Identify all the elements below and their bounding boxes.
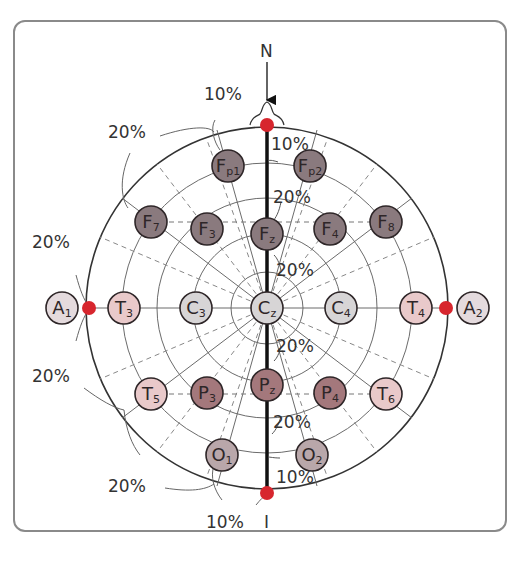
nasion-point — [260, 118, 274, 132]
electrode-f8: F8 — [370, 206, 402, 238]
electrode-a2: A2 — [457, 292, 489, 324]
electrode-t5: T5 — [135, 378, 167, 410]
left-preauricular-point — [82, 301, 96, 315]
electrode-t3: T3 — [108, 292, 140, 324]
label-top-10: 10% — [204, 84, 242, 104]
electrode-f7: F7 — [135, 206, 167, 238]
nasion-label: N — [260, 41, 273, 61]
electrode-t4: T4 — [400, 292, 432, 324]
inion-label: I — [264, 512, 269, 532]
electrode-cz: Cz — [251, 292, 283, 324]
label-left-upper-20: 20% — [32, 232, 70, 252]
label-bottom-left-20: 20% — [108, 476, 146, 496]
label-left-lower-20: 20% — [32, 366, 70, 386]
label-mid-cz-lower-20: 20% — [276, 336, 314, 356]
label-mid-cz-upper-20: 20% — [276, 260, 314, 280]
inion-point — [260, 486, 274, 500]
electrode-f4: F4 — [314, 213, 346, 245]
electrode-a1: A1 — [46, 292, 78, 324]
electrode-p3: P3 — [191, 377, 223, 409]
electrode-o2: O2 — [296, 439, 328, 471]
electrode-fp1: Fp1 — [212, 150, 244, 182]
electrode-c3: C3 — [180, 292, 212, 324]
electrode-pz: Pz — [251, 369, 283, 401]
label-bottom-10: 10% — [206, 512, 244, 532]
electrode-fp2: Fp2 — [294, 150, 326, 182]
label-top-left-20: 20% — [108, 122, 146, 142]
electrode-f3: F3 — [191, 213, 223, 245]
label-mid-fz-20: 20% — [273, 187, 311, 207]
label-mid-pz-20: 20% — [273, 412, 311, 432]
electrode-t6: T6 — [370, 378, 402, 410]
electrode-fz: Fz — [251, 218, 283, 250]
electrode-o1: O1 — [206, 439, 238, 471]
electrode-p4: P4 — [314, 377, 346, 409]
right-preauricular-point — [439, 301, 453, 315]
electrode-c4: C4 — [325, 292, 357, 324]
eeg-10-20-diagram: 10% 20% 20% 20% 20% 10% 10% 20% 20% 20% … — [0, 0, 526, 572]
